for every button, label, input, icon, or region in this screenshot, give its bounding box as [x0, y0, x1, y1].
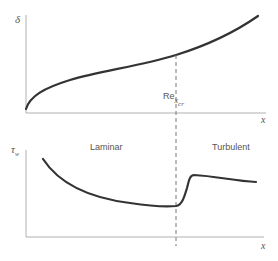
- re-sub-cr: cr: [178, 100, 184, 108]
- tau-axis-label: τw: [11, 143, 19, 155]
- laminar-label: Laminar: [90, 142, 123, 152]
- top-x-axis-label: x: [261, 114, 265, 125]
- tau-sub: w: [15, 151, 19, 157]
- shear-stress-curve: [43, 159, 256, 206]
- critical-reynolds-label: Rexcr: [163, 91, 184, 101]
- turbulent-label: Turbulent: [212, 142, 250, 152]
- re-text: Re: [163, 91, 175, 101]
- delta-curve: [26, 16, 258, 109]
- delta-axis-label: δ: [15, 13, 20, 25]
- boundary-layer-diagram: [0, 0, 278, 261]
- bottom-x-axis-label: x: [261, 240, 265, 251]
